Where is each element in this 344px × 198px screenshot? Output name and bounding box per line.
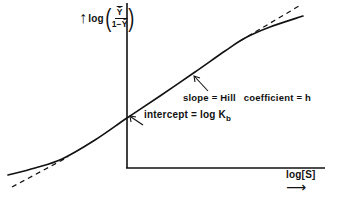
- slope-pointer-line: [195, 77, 208, 91]
- intercept-arrowhead-icon: [130, 116, 136, 122]
- y-axis-log-text: log: [88, 13, 104, 24]
- coefficient-text: coefficient = h: [244, 92, 311, 103]
- right-arrow-icon: ⟶: [286, 179, 306, 195]
- y-axis-label: ↑ log ( Ȳ 1−Ȳ ): [79, 3, 136, 33]
- intercept-pointer-line: [131, 117, 143, 125]
- intercept-subscript: b: [226, 114, 231, 123]
- close-paren: ): [128, 5, 134, 31]
- fraction-denominator: 1−Ȳ: [112, 19, 128, 29]
- slope-annotation: slope = Hillcoefficient = h: [183, 92, 311, 103]
- slope-text: slope = Hill: [183, 92, 236, 103]
- open-paren: (: [105, 5, 111, 31]
- intercept-text: intercept = log K: [144, 109, 226, 120]
- fraction-numerator: Ȳ: [115, 8, 125, 19]
- y-fraction: Ȳ 1−Ȳ: [112, 8, 128, 28]
- up-arrow-icon: ↑: [79, 10, 87, 26]
- denominator-prefix: 1−: [112, 19, 122, 29]
- denominator-var: Ȳ: [122, 19, 128, 29]
- intercept-annotation: intercept = log Kb: [144, 109, 231, 123]
